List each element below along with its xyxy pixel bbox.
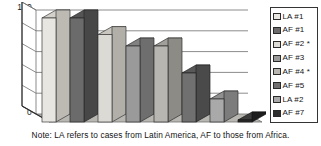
bar-af-2 [98, 27, 126, 122]
legend-swatch-icon [273, 55, 281, 62]
legend-item-label: AF #1 [283, 26, 305, 34]
legend-swatch-icon [273, 82, 281, 89]
legend-item-label: AF #7 [283, 109, 305, 117]
legend-item-label: AF #5 [283, 82, 305, 90]
plot-area [0, 2, 266, 128]
legend-swatch-icon [273, 110, 281, 117]
legend-item-label: LA #1 [283, 13, 304, 21]
legend-item[interactable]: LA #2 [271, 93, 317, 106]
legend-item[interactable]: AF #2 * [271, 38, 317, 51]
bar-la-1 [42, 10, 70, 122]
legend-item-label: AF #4 * [283, 68, 310, 76]
chart-note: Note: LA refers to cases from Latin Amer… [0, 130, 321, 140]
chart-legend: LA #1 AF #1 AF #2 * AF #3 AF #4 * AF #5 … [270, 7, 318, 123]
bar-af-5 [182, 65, 210, 122]
bar-af-3 [126, 38, 154, 122]
legend-swatch-icon [273, 68, 281, 75]
legend-swatch-icon [273, 96, 281, 103]
legend-item-label: LA #2 [283, 96, 304, 104]
legend-item[interactable]: AF #5 [271, 79, 317, 92]
legend-item[interactable]: AF #4 * [271, 65, 317, 78]
legend-item[interactable]: AF #3 [271, 52, 317, 65]
legend-item[interactable]: LA #1 [271, 10, 317, 23]
legend-swatch-icon [273, 13, 281, 20]
legend-swatch-icon [273, 41, 281, 48]
legend-item-label: AF #3 [283, 54, 305, 62]
legend-item[interactable]: AF #1 [271, 24, 317, 37]
bar-af-4 [154, 38, 182, 122]
legend-swatch-icon [273, 27, 281, 34]
bar-chart-figure: 100 80 60 40 20 0 [0, 0, 321, 146]
legend-item[interactable]: AF #7 [271, 107, 317, 120]
plot-svg [0, 2, 266, 128]
chart-left-wall [22, 2, 36, 114]
legend-item-label: AF #2 * [283, 40, 310, 48]
bar-af-1 [70, 10, 98, 122]
